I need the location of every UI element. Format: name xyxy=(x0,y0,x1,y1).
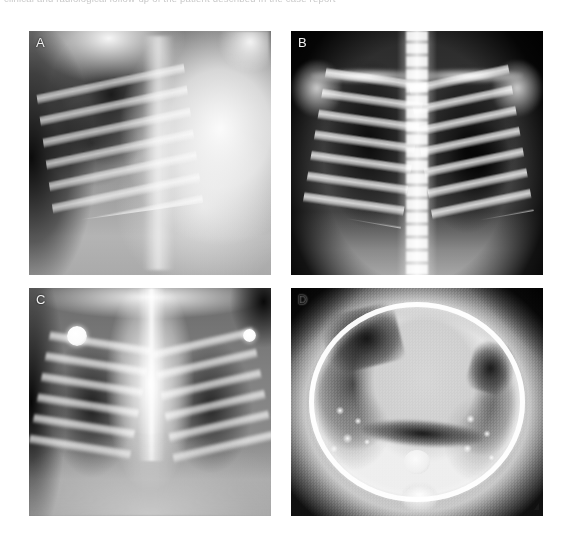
chest-radiograph-image-a xyxy=(29,31,271,275)
chest-ct-image-d xyxy=(291,288,543,516)
chest-radiograph-image-c xyxy=(29,288,271,516)
ecg-electrode-icon xyxy=(243,329,256,342)
corner-marker-icon xyxy=(534,503,539,510)
figure-panel-a[interactable]: A xyxy=(29,31,271,275)
ecg-electrode-icon xyxy=(67,326,87,346)
figure-panel-grid: A B C xyxy=(0,0,569,546)
diaphragm-shadow-c xyxy=(29,434,271,516)
ct-noise-texture-d xyxy=(291,288,543,516)
scapula-shadow-a xyxy=(206,31,269,85)
figure-panel-c[interactable]: C xyxy=(29,288,271,516)
rib-ladder-a xyxy=(34,63,202,224)
figure-panel-d[interactable]: D xyxy=(291,288,543,516)
figure-panel-b[interactable]: B xyxy=(291,31,543,275)
vertebral-column-b xyxy=(406,31,429,275)
chest-radiograph-image-b xyxy=(291,31,543,275)
